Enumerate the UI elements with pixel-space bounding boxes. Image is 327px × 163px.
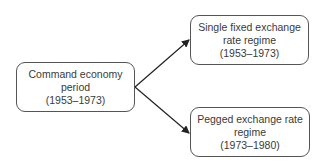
node-pegged-exchange-rate-regime: Pegged exchange rate regime (1973–1980) (190, 107, 310, 157)
node-command-economy-period: Command economy period (1953–1973) (16, 62, 135, 112)
node-label-line: rate regime (223, 34, 276, 47)
node-label-line: Command economy (29, 68, 123, 81)
node-single-fixed-exchange-rate-regime: Single fixed exchange rate regime (1953–… (190, 15, 309, 65)
node-label-line: (1953–1973) (46, 94, 106, 107)
node-label-line: (1973–1980) (220, 139, 280, 152)
node-label-line: Single fixed exchange (198, 21, 301, 34)
node-label-line: period (61, 81, 90, 94)
arrow-to-single-fixed (135, 40, 189, 87)
node-label-line: Pegged exchange rate (197, 113, 303, 126)
node-label-line: regime (234, 126, 266, 139)
node-label-line: (1953–1973) (220, 47, 280, 60)
arrow-to-pegged (135, 87, 189, 133)
